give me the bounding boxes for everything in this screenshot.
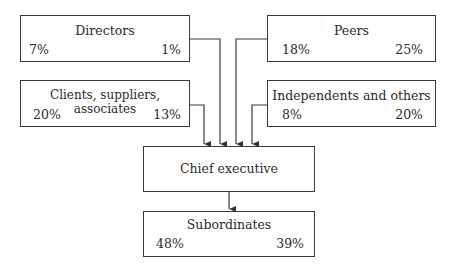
subordinates-right-value: 39%	[276, 236, 304, 251]
directors-box: Directors 7% 1%	[20, 15, 190, 62]
peers-box: Peers 18% 25%	[267, 15, 436, 62]
subordinates-left-value: 48%	[156, 236, 184, 251]
independents-right-value: 20%	[395, 107, 423, 122]
subordinates-label: Subordinates	[144, 217, 314, 232]
clients-right-value: 13%	[153, 107, 181, 122]
independents-left-value: 8%	[282, 107, 302, 122]
peers-label: Peers	[268, 23, 435, 38]
directors-label: Directors	[21, 23, 189, 38]
subordinates-box: Subordinates 48% 39%	[143, 211, 315, 257]
clients-box: Clients, suppliers, associates 20% 13%	[20, 80, 190, 127]
peers-right-value: 25%	[395, 42, 423, 57]
clients-left-value: 20%	[33, 107, 61, 122]
edge-clients-chief	[190, 105, 204, 144]
directors-right-value: 1%	[161, 42, 181, 57]
edge-directors-chief	[190, 39, 220, 144]
independents-box: Independents and others 8% 20%	[267, 80, 436, 127]
peers-left-value: 18%	[282, 42, 310, 57]
chief-executive-label: Chief executive	[144, 161, 314, 176]
edge-independents-chief	[252, 105, 267, 144]
independents-label: Independents and others	[268, 88, 435, 103]
chief-executive-box: Chief executive	[143, 146, 315, 192]
directors-left-value: 7%	[29, 42, 49, 57]
